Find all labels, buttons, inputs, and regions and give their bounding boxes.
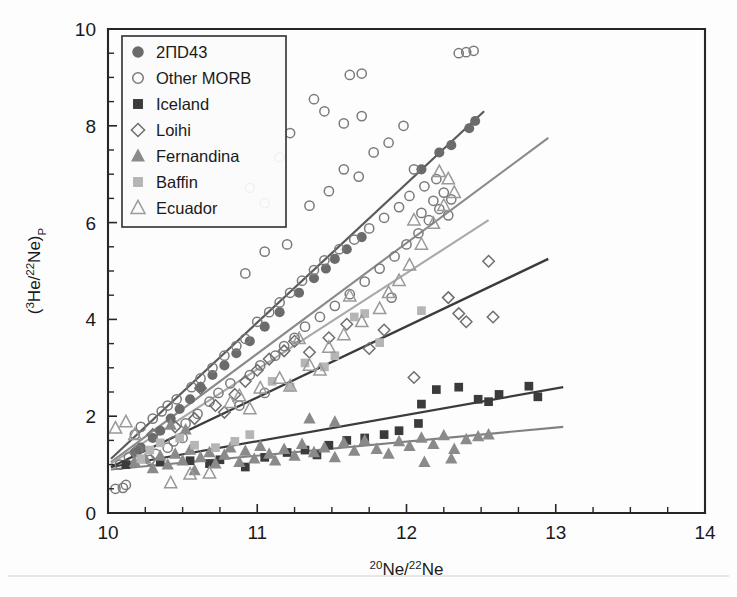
data-point: [315, 312, 324, 321]
data-point: [375, 264, 384, 273]
data-point: [300, 322, 309, 331]
data-point: [239, 444, 251, 455]
data-point: [394, 202, 403, 211]
data-point: [432, 385, 441, 394]
legend-marker-filled-square-icon: [133, 99, 143, 109]
data-point: [420, 182, 429, 191]
data-point: [369, 148, 378, 157]
data-point: [329, 415, 341, 426]
data-point: [474, 395, 483, 404]
data-point: [120, 415, 132, 426]
data-point: [418, 456, 430, 467]
data-point: [136, 443, 146, 453]
data-point: [460, 433, 472, 444]
data-point: [357, 112, 366, 121]
data-point: [417, 400, 426, 409]
data-point: [275, 307, 285, 317]
x-tick-label: 10: [97, 522, 118, 543]
data-point: [374, 302, 386, 313]
data-point: [345, 70, 354, 79]
data-point: [399, 121, 408, 130]
data-point: [169, 447, 181, 458]
data-point: [320, 107, 329, 116]
data-point: [155, 426, 165, 436]
data-point: [294, 288, 304, 298]
data-point: [415, 238, 427, 249]
y-axis-title: (3He/22Ne)P: [24, 227, 48, 314]
data-point: [329, 451, 341, 462]
figure-container: 1011121314024681020Ne/22Ne(3He/22Ne)P 2Π…: [0, 0, 737, 597]
data-point: [175, 404, 185, 414]
data-point: [415, 431, 427, 442]
data-point: [145, 446, 154, 455]
data-point: [439, 188, 448, 197]
data-point: [219, 360, 229, 370]
data-point: [534, 393, 543, 402]
data-point: [380, 430, 389, 439]
scatter-plot: 1011121314024681020Ne/22Ne(3He/22Ne)P 2Π…: [0, 0, 737, 597]
series-Loihi: [147, 256, 499, 441]
y-tick-label: 2: [85, 406, 96, 427]
y-tick-label: 8: [85, 116, 96, 137]
data-point: [360, 277, 369, 286]
data-point: [384, 138, 393, 147]
legend-label: Iceland: [156, 95, 209, 113]
series-Fernandina: [129, 412, 495, 475]
data-point: [330, 301, 339, 310]
data-point: [438, 429, 450, 440]
legend-label: Other MORB: [156, 69, 251, 87]
data-point: [338, 328, 350, 339]
data-point: [417, 208, 426, 217]
data-point: [454, 383, 463, 392]
data-point: [495, 390, 504, 399]
data-point: [382, 447, 394, 458]
legend-label: 2ΠD43: [156, 43, 207, 61]
y-axis-title-group: (3He/22Ne)P: [24, 227, 48, 314]
y-tick-label: 0: [85, 503, 96, 524]
data-point: [241, 269, 250, 278]
legend-marker-filled-circle-icon: [132, 46, 144, 58]
data-point: [231, 437, 240, 446]
data-point: [309, 95, 318, 104]
data-point: [525, 382, 534, 391]
data-point: [165, 476, 177, 487]
data-point: [296, 438, 308, 449]
data-point: [156, 438, 165, 447]
data-point: [354, 172, 363, 181]
data-point: [303, 412, 315, 423]
data-point: [260, 247, 269, 256]
data-point: [305, 201, 314, 210]
data-point: [470, 116, 480, 126]
data-point: [365, 224, 374, 233]
data-point: [375, 338, 384, 347]
y-tick-label: 6: [85, 213, 96, 234]
x-tick-label: 11: [247, 522, 267, 543]
data-point: [245, 430, 254, 439]
data-point: [185, 394, 195, 404]
x-tick-label: 14: [694, 522, 716, 543]
x-tick-label: 13: [545, 522, 566, 543]
data-point: [446, 140, 456, 150]
legend-label: Loihi: [156, 121, 191, 139]
data-point: [448, 442, 460, 453]
data-point: [408, 372, 419, 383]
y-tick-label: 4: [85, 309, 96, 330]
data-point: [414, 419, 423, 428]
legend[interactable]: 2ΠD43Other MORBIcelandLoihiFernandinaBaf…: [122, 36, 286, 227]
data-point: [487, 311, 498, 322]
data-point: [324, 187, 333, 196]
data-point: [304, 347, 315, 358]
legend-label: Ecuador: [156, 199, 218, 217]
data-point: [453, 308, 464, 319]
legend-marker-filled-square-icon: [133, 177, 143, 187]
legend-label: Fernandina: [156, 147, 240, 165]
x-tick-label: 12: [396, 522, 417, 543]
data-point: [122, 460, 131, 469]
data-point: [429, 196, 438, 205]
data-point: [379, 213, 388, 222]
data-point: [434, 147, 444, 157]
data-point: [417, 306, 426, 315]
data-point: [339, 165, 348, 174]
legend-label: Baffin: [156, 173, 198, 191]
data-point: [190, 441, 199, 450]
